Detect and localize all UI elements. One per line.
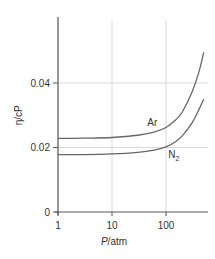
axes: 11010000.020.04 [31,17,208,231]
y-tick-label: 0.02 [31,142,51,153]
x-axis-label: P/atm [101,236,127,247]
series-label-n2-subscript: 2 [175,155,179,162]
series-label-n2: N2 [168,149,179,162]
series-lines: ArN2 [58,52,204,161]
series-label-n2-main: N [168,149,175,160]
x-axis-label-unit: /atm [108,236,127,247]
viscosity-chart: 11010000.020.04 ArN2 η/cP P/atm [0,0,215,259]
series-line-n2 [58,99,204,155]
series-label-ar: Ar [147,117,158,128]
y-tick-label: 0.04 [31,78,51,89]
series-line-ar [58,52,204,138]
x-tick-label: 100 [158,220,175,231]
y-axis-label: η/cP [13,105,24,125]
x-tick-label: 10 [106,220,118,231]
y-tick-label: 0 [44,207,50,218]
x-tick-label: 1 [55,220,61,231]
grid [58,20,208,212]
